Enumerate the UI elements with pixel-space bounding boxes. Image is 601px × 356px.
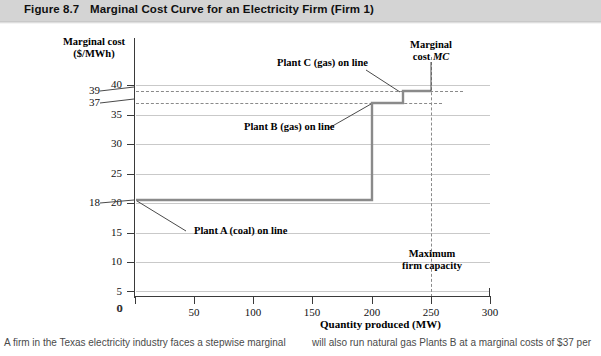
leader-plant-c — [366, 70, 400, 92]
chart-vector-layer — [0, 0, 601, 356]
annotation-mc-line1: Marginal — [410, 39, 452, 50]
annotation-capacity-line1: Maximum — [409, 248, 456, 259]
annotation-plant-b: Plant B (gas) on line — [244, 121, 334, 133]
annotation-plant-a: Plant A (coal) on line — [194, 225, 287, 237]
annotation-max-firm-capacity: Maximum firm capacity — [396, 248, 468, 272]
y-special-leaders — [100, 87, 134, 203]
figure-caption: A firm in the Texas electricity industry… — [0, 337, 601, 356]
caption-column-right: will also run natural gas Plants B at a … — [312, 337, 591, 348]
marginal-cost-curve — [136, 91, 431, 200]
annotation-mc-cost-word: cost — [413, 51, 433, 62]
annotation-mc-symbol: MC — [433, 51, 449, 62]
figure-container: Figure 8.7Marginal Cost Curve for an Ele… — [0, 0, 601, 356]
caption-column-left: A firm in the Texas electricity industry… — [4, 337, 286, 348]
annotation-marginal-cost: Marginal cost MC — [398, 39, 464, 63]
chart-plot-area: 40 35 30 25 20 15 10 5 0 39 37 18 0 50 1… — [0, 0, 601, 356]
annotation-leaders — [137, 70, 400, 231]
annotation-capacity-line2: firm capacity — [402, 260, 462, 271]
annotation-mc-line2: cost MC — [413, 51, 449, 62]
leader-plant-b — [329, 104, 371, 128]
annotation-plant-c: Plant C (gas) on line — [277, 57, 368, 69]
leader-plant-a — [137, 201, 186, 231]
